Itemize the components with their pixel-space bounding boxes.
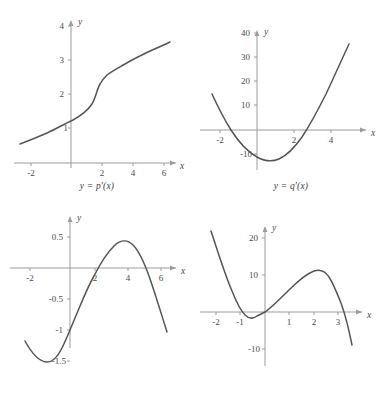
data-curve-p-prime	[20, 42, 170, 144]
x-tick-label-6: 6	[159, 273, 164, 283]
y-tick-label-neg0.5: -0.5	[49, 294, 64, 304]
plot-area-p-prime: y x 4 3 2 1 -2 2 4 6	[0, 0, 194, 178]
y-tick-label-20: 20	[241, 76, 251, 86]
figure-grid: y x 4 3 2 1 -2 2 4 6 y = p'(x)	[0, 0, 388, 397]
y-tick-label-30: 30	[241, 52, 251, 62]
x-tick-label-neg2: -2	[27, 168, 35, 178]
y-tick-label-4: 4	[60, 21, 65, 31]
caption-q-prime: y = q'(x)	[194, 181, 388, 191]
y-tick-label-40: 40	[241, 28, 251, 38]
y-axis-label: y	[263, 27, 269, 37]
y-tick-label-neg10: -10	[240, 149, 252, 159]
y-axis-label: y	[271, 223, 277, 233]
plot-area-s-prime: y x 20 10 -10 -2 -1 1 2 3	[194, 200, 388, 378]
plot-svg-q-prime: y x 40 30 20 10 -10 -2 2 4	[194, 0, 388, 178]
x-tick-label-4: 4	[329, 135, 334, 145]
x-tick-label-neg1: -1	[236, 317, 244, 327]
y-axis-arrowhead	[69, 20, 74, 26]
y-axis-arrowhead	[68, 216, 73, 222]
data-curve-r-prime	[25, 241, 167, 362]
x-tick-label-3: 3	[336, 317, 341, 327]
x-tick-label-neg2: -2	[216, 135, 224, 145]
plot-area-r-prime: y x 0.5 -0.5 -1 -1.5 -2 2 4 6	[0, 200, 194, 378]
x-axis-label: x	[366, 310, 372, 320]
y-tick-label-0.5: 0.5	[52, 232, 64, 242]
x-tick-label-neg2: -2	[26, 273, 34, 283]
x-tick-label-2: 2	[312, 317, 317, 327]
x-tick-label-neg2: -2	[212, 317, 220, 327]
x-axis-arrowhead	[170, 266, 176, 271]
x-axis-label: x	[180, 266, 186, 276]
y-tick-label-neg10: -10	[248, 344, 260, 354]
x-axis-label: x	[179, 161, 185, 171]
x-tick-label-2: 2	[292, 135, 297, 145]
plot-area-q-prime: y x 40 30 20 10 -10 -2 2 4	[194, 0, 388, 178]
plot-svg-s-prime: y x 20 10 -10 -2 -1 1 2 3	[194, 200, 388, 378]
x-axis-arrowhead	[356, 310, 362, 315]
chart-panel-p-prime: y x 4 3 2 1 -2 2 4 6 y = p'(x)	[0, 0, 194, 200]
y-axis-label: y	[76, 213, 82, 223]
x-tick-label-2: 2	[100, 168, 105, 178]
chart-panel-s-prime: y x 20 10 -10 -2 -1 1 2 3 y = s'(x)	[194, 200, 388, 397]
y-tick-label-2: 2	[60, 89, 65, 99]
data-curve-s-prime	[211, 231, 352, 345]
y-tick-label-20: 20	[249, 233, 259, 243]
y-tick-label-10: 10	[241, 100, 251, 110]
x-tick-label-4: 4	[126, 273, 131, 283]
y-tick-label-neg1: -1	[56, 325, 64, 335]
y-tick-label-10: 10	[249, 270, 259, 280]
x-axis-label: x	[370, 128, 376, 138]
chart-panel-r-prime: y x 0.5 -0.5 -1 -1.5 -2 2 4 6 y = r'(x)	[0, 200, 194, 397]
x-tick-label-6: 6	[162, 168, 167, 178]
chart-panel-q-prime: y x 40 30 20 10 -10 -2 2 4 y = q'(x)	[194, 0, 388, 200]
y-tick-label-neg1.5: -1.5	[52, 356, 67, 366]
y-axis-arrowhead	[263, 226, 268, 232]
y-axis-label: y	[77, 17, 83, 27]
x-axis-arrowhead	[170, 161, 176, 166]
plot-svg-p-prime: y x 4 3 2 1 -2 2 4 6	[0, 0, 194, 178]
x-axis-arrowhead	[360, 128, 366, 133]
y-tick-label-3: 3	[60, 55, 65, 65]
x-tick-label-4: 4	[131, 168, 136, 178]
plot-svg-r-prime: y x 0.5 -0.5 -1 -1.5 -2 2 4 6	[0, 200, 194, 378]
caption-p-prime: y = p'(x)	[0, 181, 194, 191]
x-tick-label-1: 1	[287, 317, 292, 327]
